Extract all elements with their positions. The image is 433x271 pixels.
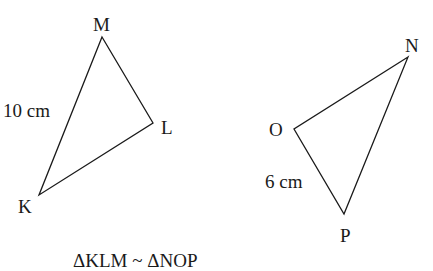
triangle-klm — [39, 37, 153, 195]
vertex-label-n: N — [405, 36, 419, 55]
vertex-label-o: O — [269, 120, 283, 139]
side-label-op: 6 cm — [265, 172, 302, 191]
vertex-label-k: K — [18, 197, 32, 216]
side-label-km: 10 cm — [3, 101, 50, 120]
vertex-label-m: M — [93, 15, 110, 34]
vertex-label-p: P — [340, 226, 351, 245]
similarity-statement: ΔKLM ~ ΔNOP — [73, 251, 197, 270]
triangle-nop — [294, 57, 408, 214]
vertex-label-l: L — [161, 118, 173, 137]
